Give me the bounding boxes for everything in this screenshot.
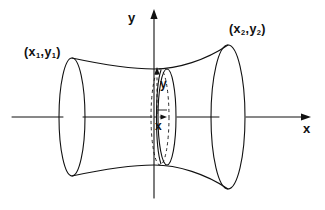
x-axis-label: x (303, 122, 310, 135)
left-endpoint-x-subscript: 1 (36, 51, 41, 60)
surface-of-revolution-drawing (0, 0, 325, 210)
lower-profile-curve (72, 165, 228, 189)
right-endpoint-label: (x2,y2) (229, 23, 266, 36)
left-endpoint-y-subscript: 1 (52, 51, 57, 60)
left-endpoint-label: (x1,y1) (24, 46, 61, 59)
right-endpoint-close-paren: ) (261, 22, 266, 36)
figure-container: (x1,y1) (x2,y2) y x y x (0, 0, 325, 210)
dimension-arrows-group (154, 67, 167, 120)
x-axis-arrowhead-icon (301, 114, 311, 121)
disk-radius-arrowhead-icon (154, 67, 159, 75)
upper-profile-curve (72, 45, 228, 69)
left-endpoint-y-var: y (44, 45, 51, 59)
left-endpoint-x-var: x (29, 45, 36, 59)
disk-radius-label: y (160, 78, 167, 90)
y-axis-label: y (128, 11, 135, 24)
left-endpoint-close-paren: ) (56, 45, 61, 59)
right-endpoint-y-subscript: 2 (257, 28, 262, 37)
disk-abscissa-label: x (155, 120, 162, 132)
axes-group (12, 9, 311, 198)
right-endpoint-y-var: y (249, 22, 256, 36)
right-endpoint-x-subscript: 2 (241, 28, 246, 37)
y-axis-arrowhead-icon (150, 9, 157, 19)
right-endpoint-x-var: x (234, 22, 241, 36)
